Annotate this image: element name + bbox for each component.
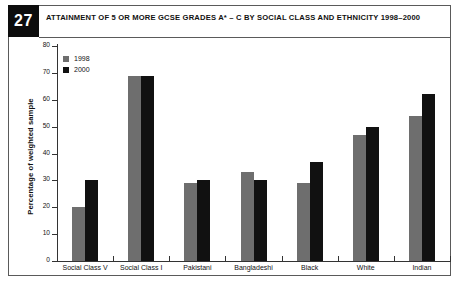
y-axis-tick-value: 10: [28, 230, 50, 237]
y-axis-tick: [52, 100, 57, 101]
y-axis-tick-label: 30: [22, 176, 50, 184]
bar: [366, 127, 379, 261]
x-axis-category-label: Bangladeshi: [225, 264, 281, 272]
y-axis-tick: [52, 234, 57, 235]
x-axis-category-label: White: [338, 264, 394, 272]
bar: [85, 180, 98, 261]
legend-swatch-2000-icon: [63, 67, 69, 73]
bar: [254, 180, 267, 261]
x-axis-category-label: Social Class I: [113, 264, 169, 272]
x-axis-separator-tick: [169, 256, 170, 262]
y-axis-tick-value: 70: [28, 69, 50, 76]
x-axis-category-label: Indian: [394, 264, 450, 272]
legend-swatch-1998-icon: [63, 56, 69, 62]
x-axis-separator-tick: [282, 256, 283, 262]
x-axis-category-label: Pakistani: [169, 264, 225, 272]
y-axis-tick: [52, 73, 57, 74]
bar: [241, 172, 254, 261]
y-axis-tick: [52, 207, 57, 208]
figure-panel: 27 ATTAINMENT OF 5 OR MORE GCSE GRADES A…: [0, 0, 459, 283]
y-axis-tick: [52, 46, 57, 47]
y-axis-tick: [52, 127, 57, 128]
y-axis-tick: [52, 154, 57, 155]
y-axis-tick: [52, 261, 57, 262]
bar: [310, 162, 323, 261]
y-axis-tick-label: 0: [22, 257, 50, 265]
y-axis-tick-label: 70: [22, 69, 50, 77]
bar: [141, 76, 154, 261]
bar: [184, 183, 197, 261]
legend-item-1998: 1998: [63, 53, 90, 64]
legend-item-2000: 2000: [63, 64, 90, 75]
y-axis-tick-label: 40: [22, 150, 50, 158]
y-axis-tick-label: 10: [22, 230, 50, 238]
y-axis-tick-value: 40: [28, 150, 50, 157]
legend-label-2000: 2000: [74, 66, 90, 73]
legend-label-1998: 1998: [74, 55, 90, 62]
chart-plot-area: Percentage of weighted sample 0102030405…: [0, 0, 459, 283]
y-axis-tick-label: 20: [22, 203, 50, 211]
bar: [72, 207, 85, 261]
x-axis-separator-tick: [338, 256, 339, 262]
bar: [422, 94, 435, 261]
y-axis-tick-value: 80: [28, 42, 50, 49]
x-axis-end-tick: [450, 256, 451, 262]
y-axis-tick-value: 50: [28, 123, 50, 130]
x-axis-separator-tick: [225, 256, 226, 262]
y-axis-tick-value: 20: [28, 203, 50, 210]
x-axis-separator-tick: [113, 256, 114, 262]
y-axis-tick-value: 0: [28, 257, 50, 264]
y-axis-tick: [52, 180, 57, 181]
x-axis-line: [57, 261, 450, 262]
bar: [409, 116, 422, 261]
bar: [353, 135, 366, 261]
x-axis-separator-tick: [394, 256, 395, 262]
y-axis-tick-label: 50: [22, 123, 50, 131]
y-axis-tick-value: 60: [28, 96, 50, 103]
y-axis-tick-label: 60: [22, 96, 50, 104]
bar: [197, 180, 210, 261]
y-axis-tick-value: 30: [28, 176, 50, 183]
y-axis-line: [57, 44, 58, 262]
x-axis-category-label: Black: [282, 264, 338, 272]
x-axis-category-label: Social Class V: [57, 264, 113, 272]
chart-legend: 1998 2000: [63, 53, 90, 75]
bar: [297, 183, 310, 261]
bar: [128, 76, 141, 261]
y-axis-tick-label: 80: [22, 42, 50, 50]
